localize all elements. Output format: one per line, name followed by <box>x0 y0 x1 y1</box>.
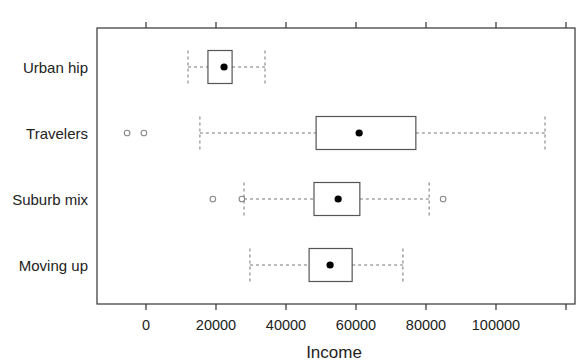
category-label: Urban hip <box>23 59 88 76</box>
outlier-point <box>124 130 130 136</box>
axes: 020000400006000080000100000 <box>142 22 566 333</box>
outlier-point <box>210 196 216 202</box>
iqr-box <box>316 117 416 150</box>
x-tick-label: 80000 <box>406 317 446 333</box>
median-dot <box>220 63 227 70</box>
x-tick-label: 100000 <box>472 317 520 333</box>
category-label: Suburb mix <box>12 191 88 208</box>
median-dot <box>356 129 363 136</box>
x-axis-label: Income <box>306 343 362 362</box>
outlier-point <box>440 196 446 202</box>
x-tick-label: 40000 <box>266 317 306 333</box>
box-urban-hip: Urban hip <box>23 51 265 84</box>
box-travelers: Travelers <box>26 117 545 150</box>
median-dot <box>327 261 334 268</box>
boxplot-svg: 020000400006000080000100000 Urban hipTra… <box>0 0 585 364</box>
outlier-point <box>239 196 245 202</box>
income-boxplot-chart: 020000400006000080000100000 Urban hipTra… <box>0 0 585 364</box>
box-moving-up: Moving up <box>19 249 403 282</box>
box-suburb-mix: Suburb mix <box>12 183 446 216</box>
x-tick-label: 60000 <box>336 317 376 333</box>
median-dot <box>335 195 342 202</box>
iqr-box <box>208 51 232 84</box>
outlier-point <box>141 130 147 136</box>
boxes: Urban hipTravelersSuburb mixMoving up <box>12 51 545 282</box>
category-label: Travelers <box>26 125 88 142</box>
x-tick-label: 0 <box>142 317 150 333</box>
category-label: Moving up <box>19 257 88 274</box>
x-tick-label: 20000 <box>196 317 236 333</box>
